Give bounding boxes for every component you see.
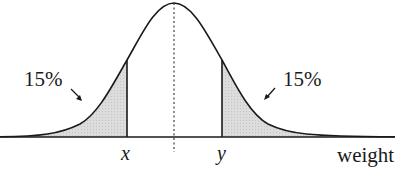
- left-tail-percent-label: 15%: [24, 67, 63, 91]
- left-tail-shaded-region: [0, 60, 127, 137]
- left-arrow-icon: [71, 89, 82, 101]
- y-cut-label: y: [215, 142, 226, 165]
- right-arrow-icon: [264, 88, 275, 100]
- right-tail-percent-label: 15%: [283, 67, 322, 91]
- normal-curve-diagram: 15% 15% x y weight: [0, 0, 395, 169]
- x-cut-label: x: [120, 142, 130, 164]
- axis-label: weight: [337, 143, 394, 167]
